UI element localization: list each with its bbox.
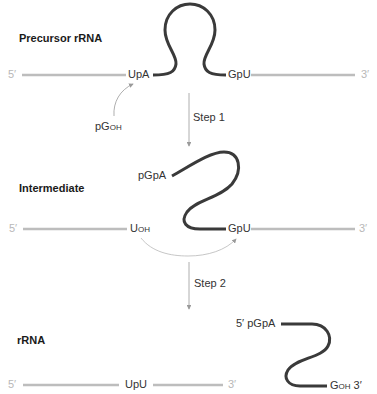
precursor-gpu-label: GpU: [228, 69, 251, 80]
intermediate-uoh-label: UOH: [130, 223, 150, 234]
step2-label: Step 2: [194, 278, 226, 289]
intermediate-5prime-label: 5′: [9, 223, 17, 234]
excised-goh-sub: OH: [339, 382, 351, 391]
excised-intron-3prime-label: GOH 3′: [330, 380, 362, 391]
precursor-intron-loop: [153, 4, 226, 75]
guanosine-cofactor-label: pGOH: [95, 121, 122, 132]
product-5prime-label: 5′: [8, 379, 16, 390]
precursor-3prime-label: 3′: [361, 69, 369, 80]
stage-title-rrna: rRNA: [17, 335, 45, 346]
intermediate-uoh-sub: OH: [138, 225, 150, 234]
precursor-upa-label: UpA: [128, 69, 149, 80]
intermediate-gpu-label: GpU: [228, 223, 251, 234]
intermediate-3prime-label: 3′: [359, 223, 367, 234]
splicing-diagram-graphics: [0, 0, 377, 394]
precursor-5prime-label: 5′: [8, 69, 16, 80]
product-3prime-label: 3′: [228, 379, 236, 390]
intermediate-intron-curve: [172, 152, 239, 229]
stage-title-precursor: Precursor rRNA: [19, 33, 102, 44]
guanosine-cofactor-main: pG: [95, 120, 110, 132]
excised-3prime-suffix: 3′: [351, 379, 362, 391]
step1-label: Step 1: [193, 112, 225, 123]
excised-goh-main: G: [330, 379, 339, 391]
intermediate-uoh-main: U: [130, 222, 138, 234]
guanosine-cofactor-sub: OH: [110, 123, 122, 132]
exon-ligation-arrow: [141, 238, 236, 256]
excised-intron-5prime-label: 5′ pGpA: [236, 318, 275, 329]
excised-intron-curve: [281, 324, 330, 386]
stage-title-intermediate: Intermediate: [19, 183, 84, 194]
intermediate-pgpa-label: pGpA: [138, 170, 166, 181]
product-upu-label: UpU: [125, 379, 147, 390]
guanosine-attack-arrow: [114, 84, 133, 116]
